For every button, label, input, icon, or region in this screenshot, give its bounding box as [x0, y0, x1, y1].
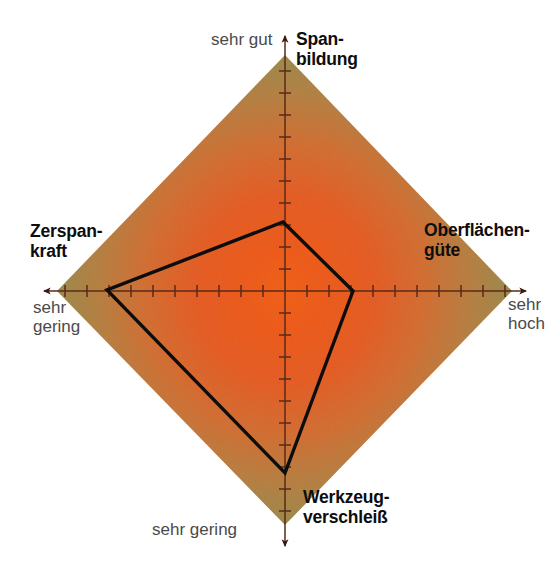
radar-chart-canvas — [0, 0, 556, 575]
scale-label-bottom: sehr gering — [152, 521, 237, 540]
scale-label-top: sehr gut — [211, 31, 272, 50]
axis-title-zerspankraft: Zerspan- kraft — [30, 222, 102, 261]
axis-title-werkzeugverschleiss: Werkzeug- verschleiß — [303, 488, 389, 527]
scale-label-right: sehr hoch — [508, 296, 545, 333]
axis-title-spanbildung: Span- bildung — [296, 30, 358, 69]
radar-chart-figure: Span- bildung Oberflächen- güte Werkzeug… — [0, 0, 556, 575]
scale-label-left: sehr gering — [33, 299, 80, 336]
axis-title-oberflaechenguete: Oberflächen- güte — [424, 221, 530, 260]
